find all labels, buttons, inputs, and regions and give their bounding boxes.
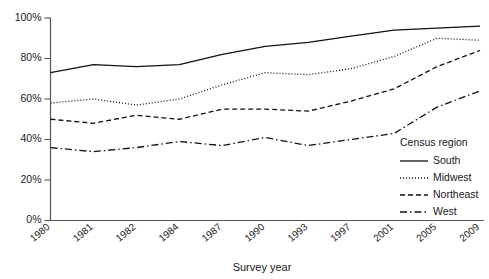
x-axis-title: Survey year: [233, 261, 292, 273]
x-tick-label-group: 1987: [199, 221, 223, 244]
x-tick-label: 1997: [328, 221, 352, 244]
y-tick-marks: [45, 18, 51, 221]
legend-label-west: West: [433, 205, 457, 217]
y-tick-label: 20%: [20, 173, 41, 185]
legend-label-south: South: [433, 154, 461, 166]
x-tick-label: 2009: [457, 221, 481, 244]
legend-entries: SouthMidwestNortheastWest: [400, 154, 479, 217]
x-tick-label-group: 1990: [242, 221, 266, 244]
x-tick-label-group: 2001: [371, 221, 395, 244]
y-tick-label: 40%: [20, 132, 41, 144]
x-tick-label: 1990: [242, 221, 266, 244]
legend-title: Census region: [400, 136, 468, 148]
x-tick-label-group: 1982: [114, 221, 138, 244]
legend-item-northeast[interactable]: Northeast: [400, 188, 479, 200]
x-axis: 1980198119821984198719901993199720012005…: [28, 221, 484, 274]
y-axis: 0%20%40%60%80%100%: [15, 11, 51, 226]
line-chart-figure: 0%20%40%60%80%100% 198019811982198419871…: [0, 0, 489, 279]
x-tick-label: 2005: [414, 221, 438, 244]
x-tick-labels: 1980198119821984198719901993199720012005…: [28, 221, 482, 244]
y-tick-label: 100%: [15, 11, 42, 23]
series-line-midwest: [51, 38, 481, 105]
chart-legend: Census region SouthMidwestNortheastWest: [400, 136, 479, 217]
x-tick-label-group: 1997: [328, 221, 352, 244]
legend-item-south[interactable]: South: [400, 154, 461, 166]
series-line-northeast: [51, 50, 481, 123]
legend-item-west[interactable]: West: [400, 205, 457, 217]
y-tick-labels: 0%20%40%60%80%100%: [15, 11, 42, 226]
y-tick-label: 60%: [20, 92, 41, 104]
x-tick-label: 1993: [285, 221, 309, 244]
y-tick-label: 80%: [20, 51, 41, 63]
x-tick-label: 1987: [199, 221, 223, 244]
x-tick-label-group: 1993: [285, 221, 309, 244]
x-tick-label: 1982: [114, 221, 138, 244]
legend-label-midwest: Midwest: [433, 171, 472, 183]
x-tick-label: 1981: [71, 221, 95, 244]
x-tick-label: 1984: [157, 221, 181, 244]
legend-item-midwest[interactable]: Midwest: [400, 171, 472, 183]
x-tick-label-group: 1984: [157, 221, 181, 244]
x-tick-label: 2001: [371, 221, 395, 244]
series-line-south: [51, 26, 481, 73]
x-tick-label-group: 2009: [457, 221, 481, 244]
y-tick-label: 0%: [26, 213, 41, 225]
x-tick-label-group: 1981: [71, 221, 95, 244]
data-series-group: [51, 26, 481, 152]
x-tick-label-group: 2005: [414, 221, 438, 244]
chart-canvas: 0%20%40%60%80%100% 198019811982198419871…: [0, 0, 489, 279]
legend-label-northeast: Northeast: [433, 188, 479, 200]
